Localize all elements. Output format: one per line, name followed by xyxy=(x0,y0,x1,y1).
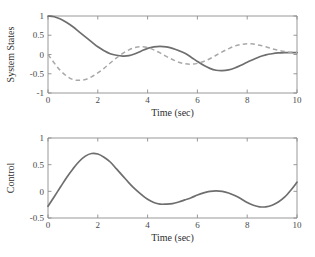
x-tick-label: 10 xyxy=(293,220,303,230)
series-state-x1 xyxy=(48,16,297,71)
figure-container: 0246810-1-0.500.51Time (sec)System State… xyxy=(0,0,315,257)
y-tick-label: 0.5 xyxy=(33,30,45,40)
x-tick-label: 4 xyxy=(145,95,150,105)
x-tick-label: 4 xyxy=(145,220,150,230)
axes-frame xyxy=(48,16,297,93)
x-tick-label: 10 xyxy=(293,95,303,105)
y-tick-label: 0 xyxy=(40,50,45,60)
chart-panel-system-states: 0246810-1-0.500.51Time (sec)System State… xyxy=(0,0,315,128)
x-tick-label: 8 xyxy=(245,95,250,105)
y-tick-label: 1 xyxy=(40,133,45,143)
y-axis-label: System States xyxy=(5,26,16,82)
system-states-plot: 0246810-1-0.500.51Time (sec)System State… xyxy=(0,0,315,128)
x-tick-label: 0 xyxy=(46,220,51,230)
y-tick-label: 0 xyxy=(40,187,45,197)
y-tick-label: -0.5 xyxy=(30,213,45,223)
x-tick-label: 0 xyxy=(46,95,51,105)
x-axis-label: Time (sec) xyxy=(151,107,194,119)
y-tick-label: 0.5 xyxy=(33,160,45,170)
y-tick-label: 1 xyxy=(40,11,45,21)
x-tick-label: 6 xyxy=(195,95,200,105)
series-control-u xyxy=(48,153,297,207)
x-tick-label: 6 xyxy=(195,220,200,230)
x-tick-label: 8 xyxy=(245,220,250,230)
control-plot: 0246810-0.500.51Time (sec)Control xyxy=(0,128,315,257)
x-tick-label: 2 xyxy=(96,220,101,230)
y-tick-label: -0.5 xyxy=(30,69,45,79)
y-axis-label: Control xyxy=(5,163,16,194)
x-axis-label: Time (sec) xyxy=(151,232,194,244)
chart-panel-control: 0246810-0.500.51Time (sec)Control xyxy=(0,128,315,257)
y-tick-label: -1 xyxy=(37,88,45,98)
x-tick-label: 2 xyxy=(96,95,101,105)
